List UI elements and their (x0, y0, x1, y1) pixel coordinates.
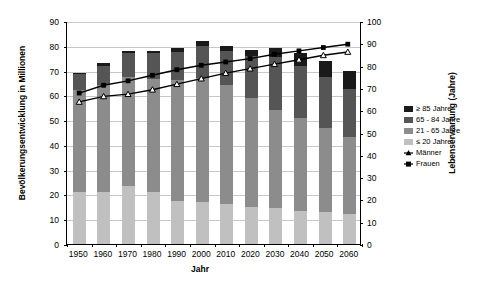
y-axis-right-tick-label: 80 (367, 62, 393, 72)
y-axis-left-tick-label: 50 (33, 116, 59, 126)
legend-item: Männer (404, 147, 490, 158)
legend-triangle-marker-icon (404, 149, 413, 157)
line-series-group (67, 22, 360, 244)
y-axis-right-tick-label: 70 (367, 84, 393, 94)
y-axis-right-tick-label: 0 (367, 240, 393, 250)
legend-label: ≥ 85 Jahre (416, 105, 451, 113)
y2-tickmark (360, 223, 363, 224)
y-axis-left-tick-label: 40 (33, 141, 59, 151)
y2-tickmark (360, 67, 363, 68)
y-axis-left-title: Bevölkerungsentwicklung in Millionen (17, 23, 27, 223)
chart-container: Bevölkerungsentwicklung in Millionen Leb… (0, 0, 492, 282)
x-tickmark (264, 244, 265, 247)
line-marker (321, 45, 326, 50)
y-axis-right-tick-label: 90 (367, 39, 393, 49)
line-marker (126, 78, 131, 83)
y2-tickmark (360, 134, 363, 135)
x-tickmark (337, 244, 338, 247)
line-marker (248, 56, 253, 61)
x-tickmark (190, 244, 191, 247)
x-tickmark (362, 244, 363, 247)
y2-tickmark (360, 89, 363, 90)
y2-tickmark (360, 156, 363, 157)
x-tickmark (239, 244, 240, 247)
y2-tickmark (360, 44, 363, 45)
plot-area (66, 22, 361, 245)
x-tickmark (215, 244, 216, 247)
y-axis-left-tick-label: 70 (33, 67, 59, 77)
line-marker (174, 67, 179, 72)
y-axis-left-tick-label: 90 (33, 17, 59, 27)
line-path (79, 52, 348, 102)
legend-item: 21 - 65 Jahre (404, 125, 490, 136)
x-tickmark (141, 244, 142, 247)
y-axis-right-tick-label: 10 (367, 218, 393, 228)
y-axis-left-tick-label: 20 (33, 190, 59, 200)
y2-tickmark (360, 178, 363, 179)
legend-label: Männer (416, 149, 441, 157)
y-axis-right-tick-label: 100 (367, 17, 393, 27)
y-axis-left-tick-label: 30 (33, 166, 59, 176)
line-marker (297, 48, 302, 53)
legend-item: Frauen (404, 158, 490, 169)
legend-label: Frauen (416, 160, 440, 168)
x-tickmark (313, 244, 314, 247)
line-marker (223, 60, 228, 65)
x-tickmark (116, 244, 117, 247)
legend-label: 21 - 65 Jahre (416, 127, 460, 135)
legend-swatch-icon (404, 117, 413, 123)
y-axis-right-tick-label: 60 (367, 106, 393, 116)
x-tickmark (165, 244, 166, 247)
y2-tickmark (360, 200, 363, 201)
line-marker (199, 63, 204, 68)
x-tickmark (92, 244, 93, 247)
y-axis-left-tick-label: 0 (33, 240, 59, 250)
legend-item: 65 - 84 Jahre (404, 114, 490, 125)
legend-swatch-icon (404, 106, 413, 112)
x-tickmark (67, 244, 68, 247)
legend-label: 65 - 84 Jahre (416, 116, 460, 124)
y-axis-right-tick-label: 40 (367, 151, 393, 161)
y-axis-left-tick-label: 10 (33, 215, 59, 225)
y-axis-right-tick-label: 20 (367, 195, 393, 205)
y2-tickmark (360, 22, 363, 23)
legend-swatch-icon (404, 139, 413, 145)
legend-square-marker-icon (404, 160, 413, 168)
x-axis-title: Jahr (0, 264, 400, 274)
y-axis-right-tick-label: 30 (367, 173, 393, 183)
y-axis-left-tick-label: 80 (33, 42, 59, 52)
y-axis-left-tick-label: 60 (33, 91, 59, 101)
line-marker (345, 42, 350, 47)
legend-label: ≤ 20 Jahre (416, 138, 451, 146)
y2-tickmark (360, 111, 363, 112)
line-marker (101, 83, 106, 88)
line-marker (150, 73, 155, 78)
line-path (79, 44, 348, 93)
line-marker (272, 52, 277, 57)
legend: ≥ 85 Jahre65 - 84 Jahre21 - 65 Jahre≤ 20… (404, 103, 490, 169)
y-axis-right-tick-label: 50 (367, 129, 393, 139)
x-tickmark (288, 244, 289, 247)
legend-item: ≤ 20 Jahre (404, 136, 490, 147)
legend-item: ≥ 85 Jahre (404, 103, 490, 114)
legend-swatch-icon (404, 128, 413, 134)
x-axis-tick-label: 2060 (329, 249, 369, 259)
line-marker (77, 91, 82, 96)
